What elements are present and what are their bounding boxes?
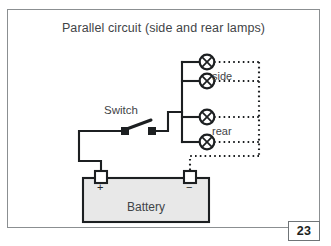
side-lamp-group-label: side [212, 70, 232, 82]
battery-label: Battery [83, 200, 209, 214]
page-number-badge: 23 [288, 221, 320, 241]
figure-title: Parallel circuit (side and rear lamps) [7, 21, 320, 35]
figure-frame [7, 9, 320, 228]
switch-label: Switch [104, 104, 138, 116]
battery-positive-sign: + [97, 181, 103, 193]
rear-lamp-group-label: rear [212, 125, 232, 137]
battery-negative-sign: − [186, 181, 192, 193]
figure-root: Parallel circuit (side and rear lamps) s… [0, 0, 331, 246]
